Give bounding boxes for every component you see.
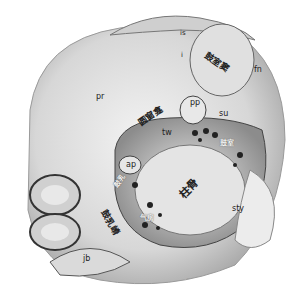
label-ap: ap bbox=[126, 161, 136, 169]
label-sty: sty bbox=[232, 205, 244, 213]
illustration bbox=[0, 0, 294, 297]
label-i: i bbox=[181, 52, 183, 59]
anatomy-figure: pr is i 鼓室窦 fn 圆窗龛 pp su tw ap 鼓室 鼓乳 鼓乳嵴… bbox=[0, 0, 294, 297]
label-is: is bbox=[180, 30, 186, 37]
label-tw: tw bbox=[162, 129, 172, 137]
label-white-3: 气房 bbox=[140, 215, 154, 222]
artist-signature: ~ bbox=[186, 275, 190, 281]
label-su: su bbox=[219, 110, 228, 118]
label-fn: fn bbox=[254, 66, 262, 74]
label-pr: pr bbox=[96, 93, 104, 101]
label-jb: jb bbox=[83, 255, 90, 263]
label-pp: pp bbox=[190, 99, 200, 107]
label-white-1: 鼓室 bbox=[220, 140, 234, 147]
